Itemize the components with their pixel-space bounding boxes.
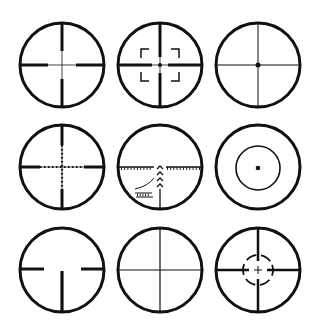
reticle-circle-dot <box>216 125 300 209</box>
reticle-fine-crosshair-dot <box>216 23 300 107</box>
reticle-simple-crosshair <box>118 228 202 312</box>
reticle-grid <box>0 0 318 336</box>
reticle-target-dashed-circle <box>216 228 300 312</box>
reticle-duplex-with-brackets <box>118 23 202 107</box>
reticle-german-post <box>20 228 104 312</box>
reticle-duplex <box>20 23 104 107</box>
reticle-mil-dot-duplex <box>20 125 104 209</box>
reticle-ballistic-rangefinder <box>118 125 202 209</box>
